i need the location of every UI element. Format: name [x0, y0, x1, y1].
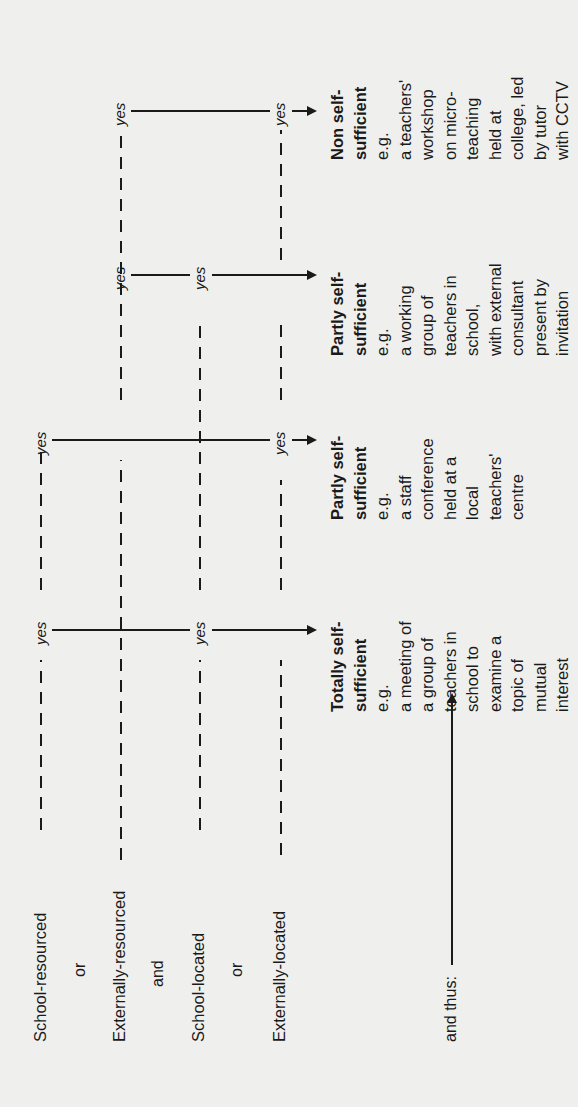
label-school-located: School-located [190, 933, 207, 1042]
outcome-partly-self-sufficient-working-group: Partly self- sufficient e.g. a working g… [326, 263, 574, 356]
eg-label: e.g. [371, 436, 394, 520]
example-line: held at a [439, 436, 462, 520]
outcome-partly-self-sufficient-staff-conference: Partly self- sufficient e.g. a staff con… [326, 436, 529, 520]
yes-label: yes [192, 267, 207, 290]
outcome-non-self-sufficient: Non self- sufficient e.g. a teachers' wo… [326, 77, 574, 160]
example-line: centre [506, 436, 529, 520]
example-line: local [461, 436, 484, 520]
outcome-title: Partly self- [326, 263, 349, 356]
label-school-resourced: School-resourced [32, 913, 49, 1042]
label-and: and [150, 960, 166, 987]
example-line: on micro- [439, 77, 462, 160]
example-line: held at [484, 77, 507, 160]
outcome-title: sufficient [349, 621, 372, 712]
example-line: group of [416, 263, 439, 356]
outcome-title: Partly self- [326, 436, 349, 520]
outcome-title: Totally self- [326, 621, 349, 712]
example-line: a group of [416, 621, 439, 712]
outcome-title: sufficient [349, 263, 372, 356]
outcome-title: sufficient [349, 436, 372, 520]
example-line: workshop [416, 77, 439, 160]
yes-label: yes [33, 432, 48, 455]
label-or-1: or [72, 963, 88, 977]
yes-label: yes [112, 267, 127, 290]
example-line: conference [416, 436, 439, 520]
yes-label: yes [112, 103, 127, 126]
flow-diagram [0, 0, 578, 1107]
example-line: a teachers' [394, 77, 417, 160]
example-line: teachers' [484, 436, 507, 520]
example-line: mutual [529, 621, 552, 712]
yes-label: yes [192, 622, 207, 645]
example-line: interest [551, 621, 574, 712]
example-line: a staff [394, 436, 417, 520]
yes-label: yes [272, 432, 287, 455]
label-externally-resourced: Externally-resourced [111, 891, 128, 1042]
example-line: teachers in [439, 263, 462, 356]
label-or-2: or [229, 963, 245, 977]
example-line: with CCTV [551, 77, 574, 160]
example-line: examine a [484, 621, 507, 712]
example-line: invitation [551, 263, 574, 356]
example-line: a working [394, 263, 417, 356]
example-line: a meeting of [394, 621, 417, 712]
example-line: school to [461, 621, 484, 712]
example-line: teaching [461, 77, 484, 160]
eg-label: e.g. [371, 77, 394, 160]
outcome-totally-self-sufficient: Totally self- sufficient e.g. a meeting … [326, 621, 574, 712]
example-line: teachers in [439, 621, 462, 712]
outcome-title: sufficient [349, 77, 372, 160]
example-line: present by [529, 263, 552, 356]
example-line: by tutor [529, 77, 552, 160]
example-line: with external [484, 263, 507, 356]
example-line: college, led [506, 77, 529, 160]
label-externally-located: Externally-located [271, 911, 288, 1042]
example-line: school, [461, 263, 484, 356]
eg-label: e.g. [371, 263, 394, 356]
eg-label: e.g. [371, 621, 394, 712]
example-line: consultant [506, 263, 529, 356]
example-line: topic of [506, 621, 529, 712]
outcome-title: Non self- [326, 77, 349, 160]
yes-label: yes [33, 622, 48, 645]
label-and-thus: and thus: [443, 976, 459, 1042]
yes-label: yes [272, 103, 287, 126]
